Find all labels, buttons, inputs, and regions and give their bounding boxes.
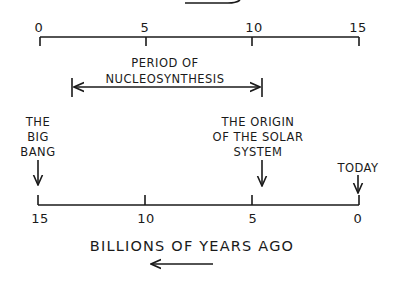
nucleosynthesis-label-line2: NUCLEOSYNTHESIS [105,72,224,86]
bottom-axis-tick-label: 0 [354,211,363,226]
top-axis-tick-label: 15 [349,20,367,35]
big-bang-label-line: BIG [27,130,49,144]
solar-system-label-line: THE ORIGIN [221,115,295,129]
bottom-axis-tick-label: 15 [31,211,49,226]
event-today: TODAY [336,161,379,193]
bottom-axis-tick-label: 10 [137,211,155,226]
nucleosynthesis-label-line1: PERIOD OF [131,56,198,70]
today-label: TODAY [336,161,379,175]
top-axis: 0 5 10 15 [35,20,367,46]
timeline-diagram: 0 5 10 15 PERIOD OF NUCLEOSYNTHESIS THE … [0,0,402,282]
event-solar-system-origin: THE ORIGIN OF THE SOLAR SYSTEM [213,115,304,186]
top-axis-tick-label: 0 [35,20,44,35]
bottom-axis: 15 10 5 0 BILLIONS OF YEARS AGO [31,195,362,264]
nucleosynthesis-period: PERIOD OF NUCLEOSYNTHESIS [72,56,262,97]
cropped-top-arrow [185,0,240,3]
top-axis-tick-label: 5 [141,20,150,35]
solar-system-label-line: SYSTEM [234,145,283,159]
solar-system-label-line: OF THE SOLAR [213,130,304,144]
top-axis-tick-label: 10 [245,20,263,35]
bottom-axis-tick-label: 5 [249,211,258,226]
big-bang-label-line: THE [25,115,50,129]
event-big-bang: THE BIG BANG [20,115,55,185]
big-bang-label-line: BANG [20,145,55,159]
bottom-axis-title: BILLIONS OF YEARS AGO [90,238,294,254]
